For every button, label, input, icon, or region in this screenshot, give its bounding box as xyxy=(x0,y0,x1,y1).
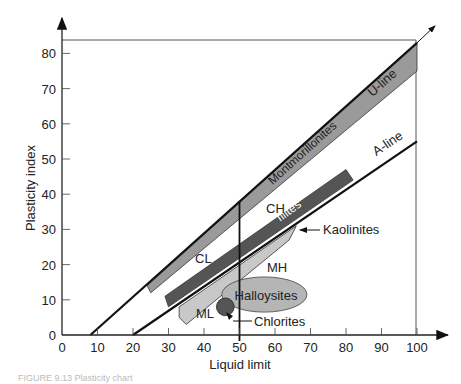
halloysites-label: Halloysites xyxy=(235,288,298,303)
x-tick-label: 50 xyxy=(232,340,246,355)
y-tick-label: 60 xyxy=(42,117,56,132)
y-tick-label: 70 xyxy=(42,82,56,97)
y-tick-label: 40 xyxy=(42,187,56,202)
x-tick-label: 60 xyxy=(268,340,282,355)
y-tick-label: 10 xyxy=(42,293,56,308)
x-tick-label: 20 xyxy=(126,340,140,355)
montmorillonites-label: Montmorillonites xyxy=(265,119,339,188)
x-tick-label: 90 xyxy=(374,340,388,355)
x-axis-label: Liquid limit xyxy=(209,357,271,372)
u-line-extension-arrow xyxy=(417,26,435,43)
plasticity-chart: 010203040506070809010001020304050607080 … xyxy=(0,0,461,384)
chlorites-region xyxy=(216,298,234,316)
x-tick-label: 10 xyxy=(90,340,104,355)
zone-cl: CL xyxy=(195,251,212,266)
kaolinites-label: Kaolinites xyxy=(323,222,380,237)
zone-ch: CH xyxy=(266,201,285,216)
x-tick-label: 30 xyxy=(161,340,175,355)
x-tick-label: 40 xyxy=(197,340,211,355)
y-tick-label: 50 xyxy=(42,152,56,167)
y-tick-label: 80 xyxy=(42,46,56,61)
y-tick-label: 20 xyxy=(42,258,56,273)
zone-ml: ML xyxy=(196,306,214,321)
x-tick-label: 100 xyxy=(406,340,428,355)
x-tick-label: 80 xyxy=(339,340,353,355)
y-tick-label: 30 xyxy=(42,222,56,237)
figure-caption: FIGURE 9.13 Plasticity chart xyxy=(18,373,133,383)
x-tick-label: 0 xyxy=(58,340,65,355)
y-tick-label: 0 xyxy=(49,328,56,343)
x-tick-label: 70 xyxy=(303,340,317,355)
chart-svg: 010203040506070809010001020304050607080 … xyxy=(0,0,461,384)
y-axis-label: Plasticity index xyxy=(23,145,38,231)
chlorites-label: Chlorites xyxy=(254,314,306,329)
zone-mh: MH xyxy=(267,260,287,275)
